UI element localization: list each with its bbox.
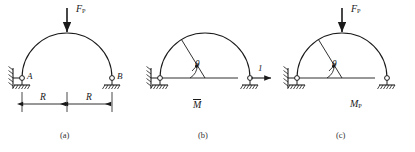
applied-load-label: FP — [351, 4, 361, 15]
angle-label: θ — [332, 60, 337, 70]
dimension-label-left: R — [40, 93, 46, 103]
arch-curve — [160, 33, 250, 78]
angle-label: θ — [195, 60, 200, 70]
support-right-ground-hatching — [378, 85, 396, 89]
support-left-pin — [295, 76, 300, 81]
support-right-label: B — [117, 72, 123, 81]
moment-notation-mp: MP — [350, 99, 362, 110]
support-left-wall-hatching — [284, 67, 289, 87]
figure-panel-c: FP θ MP (c) — [275, 0, 415, 152]
arch-curve — [22, 33, 112, 78]
caption-b: (b) — [198, 131, 208, 140]
moment-notation-mp-sub: P — [358, 102, 362, 109]
caption-a: (a) — [60, 131, 69, 140]
support-left-wall-hatching — [147, 67, 152, 87]
figure-c-canvas — [275, 0, 415, 152]
figure-panel-b: θ 1 M (b) — [138, 0, 278, 152]
unit-load-label: 1 — [258, 64, 263, 73]
dimension-witness-lines — [22, 92, 112, 112]
support-right-pin — [385, 76, 390, 81]
applied-load-label: FP — [76, 4, 86, 15]
support-right-ground-hatching — [241, 85, 259, 89]
moment-notation-mbar: M — [193, 99, 201, 110]
support-left-ground-hatching — [151, 85, 169, 89]
figure-panel-a: FP A B R R (a) — [0, 0, 140, 152]
support-left-pin — [20, 76, 25, 81]
arch-curve — [297, 33, 387, 78]
figure-b-canvas — [138, 0, 278, 152]
support-left-wall-hatching — [9, 67, 14, 87]
radius-line — [319, 40, 343, 78]
support-right-ground-hatching — [103, 85, 121, 89]
support-right-pin — [110, 76, 115, 81]
caption-c: (c) — [336, 131, 345, 140]
support-left-pin — [158, 76, 163, 81]
dimension-label-right: R — [86, 93, 92, 103]
radius-line — [182, 40, 206, 78]
support-left-ground-hatching — [13, 85, 31, 89]
applied-load-label-sub: P — [357, 7, 361, 14]
diagram-root: FP A B R R (a) — [0, 0, 415, 152]
moment-notation-mbar-text: M — [193, 99, 201, 110]
support-left-ground-hatching — [288, 85, 306, 89]
applied-load-label-sub: P — [82, 7, 86, 14]
support-left-label: A — [27, 72, 33, 81]
